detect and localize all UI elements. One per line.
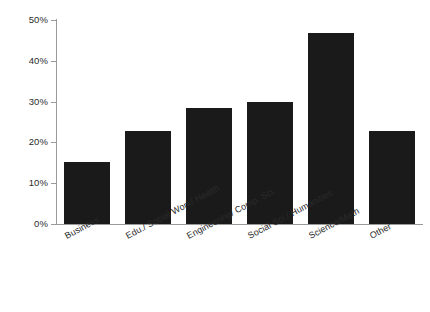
y-tick-label: 50% — [4, 15, 48, 25]
y-tick-mark — [51, 224, 56, 225]
y-tick-mark — [51, 61, 56, 62]
y-tick-mark — [51, 183, 56, 184]
bar — [247, 102, 293, 224]
y-tick-label: 0% — [4, 219, 48, 229]
bar — [308, 33, 354, 224]
x-axis-line — [56, 224, 423, 225]
bar-chart: 0%10%20%30%40%50% BusinessEdu./ Social W… — [0, 0, 430, 312]
bar-series — [57, 20, 422, 224]
bar — [186, 108, 232, 224]
y-tick-label: 20% — [4, 137, 48, 147]
y-tick-label: 10% — [4, 178, 48, 188]
y-tick-label-wrap: 10% — [0, 178, 48, 188]
y-tick-label: 40% — [4, 56, 48, 66]
y-tick-label-wrap: 30% — [0, 97, 48, 107]
y-tick-label-wrap: 20% — [0, 137, 48, 147]
bar — [369, 131, 415, 224]
y-tick-label: 30% — [4, 97, 48, 107]
y-tick-label-wrap: 0% — [0, 219, 48, 229]
y-tick-mark — [51, 102, 56, 103]
y-tick-mark — [51, 142, 56, 143]
y-tick-label-wrap: 50% — [0, 15, 48, 25]
y-tick-mark — [51, 20, 56, 21]
bar — [125, 131, 171, 224]
bar — [64, 162, 110, 224]
y-tick-label-wrap: 40% — [0, 56, 48, 66]
